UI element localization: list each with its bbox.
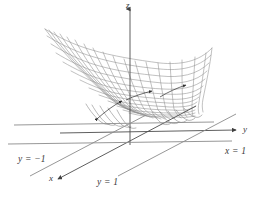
y-axis-label: y <box>243 125 247 134</box>
surface-mesh <box>45 29 212 128</box>
axes-group <box>58 9 236 179</box>
surface-plot-figure: z y x y = −1 y = 1 x = 1 <box>0 0 257 197</box>
guide-line-x-equals-neg-1 <box>14 122 214 125</box>
annotation-y-equals-1: y = 1 <box>97 178 118 188</box>
annotation-x-equals-1: x = 1 <box>225 147 246 157</box>
surface-plot-canvas <box>0 0 257 197</box>
z-axis-label: z <box>126 1 130 10</box>
annotation-y-equals-neg-1: y = −1 <box>18 155 46 165</box>
mesh-lines-u <box>45 29 212 119</box>
guide-line-x-equals-1 <box>8 141 232 144</box>
x-axis-label: x <box>49 174 53 183</box>
